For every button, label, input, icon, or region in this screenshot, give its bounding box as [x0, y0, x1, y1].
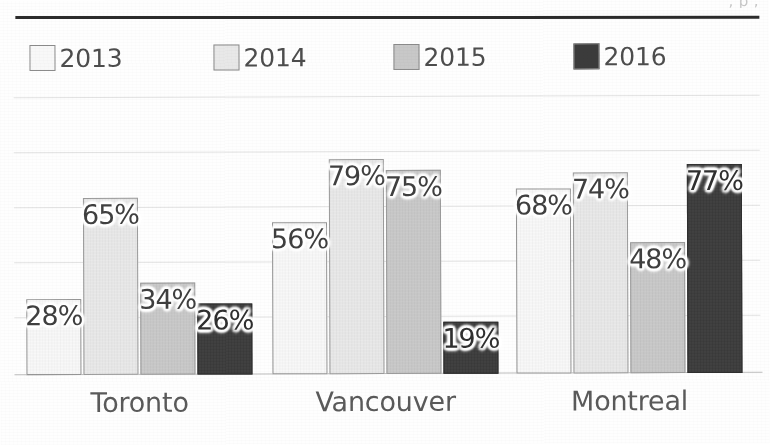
bar-slot: 65%	[83, 97, 139, 375]
legend-swatch-2016	[573, 43, 599, 69]
bar-value-label: 34%	[139, 286, 196, 313]
bar-value-label: 79%	[328, 162, 385, 189]
legend-swatch-2013	[29, 45, 55, 71]
category-axis: TorontoVancouverMontreal	[1, 385, 770, 427]
cropped-heading: , p ;	[429, 0, 759, 9]
category-label-montreal: Montreal	[571, 385, 688, 416]
bar-slot: 68%	[516, 95, 572, 373]
bar-slot: 75%	[386, 96, 442, 374]
legend-label-2016: 2016	[603, 44, 666, 69]
bar-group: 68%74%48%77%	[516, 95, 743, 374]
bar-value-label: 75%	[385, 173, 442, 200]
bar-value-label: 26%	[196, 306, 253, 333]
bar-value-label: 68%	[515, 191, 572, 218]
bar-slot: 79%	[329, 96, 385, 374]
bar-slot: 26%	[197, 96, 253, 374]
bar-group: 28%65%34%26%	[26, 96, 253, 375]
legend-item-2013[interactable]: 2013	[29, 45, 122, 71]
plot-area: 28%65%34%26%56%79%75%19%68%74%48%77%	[0, 95, 769, 375]
bar-slot: 56%	[272, 96, 328, 374]
legend-label-2013: 2013	[59, 45, 122, 70]
bar-slot: 74%	[573, 95, 629, 373]
category-label-toronto: Toronto	[90, 387, 188, 418]
bar-value-label: 48%	[629, 245, 686, 272]
legend-swatch-2014	[213, 44, 239, 70]
chart-legend: 2013 2014 2015 2016	[21, 43, 721, 83]
category-label-vancouver: Vancouver	[315, 386, 456, 417]
legend-label-2014: 2014	[243, 45, 306, 70]
bar-slot: 19%	[443, 96, 499, 374]
bar-value-label: 56%	[271, 225, 328, 252]
bar-value-label: 65%	[82, 201, 139, 228]
bar-vancouver-2014[interactable]	[329, 159, 385, 374]
bar-value-label: 74%	[572, 175, 629, 202]
bar-value-label: 77%	[686, 167, 743, 194]
bar-slot: 48%	[630, 95, 686, 373]
legend-item-2016[interactable]: 2016	[573, 43, 666, 69]
bar-value-label: 19%	[442, 325, 499, 352]
legend-label-2015: 2015	[423, 44, 486, 69]
top-rule-divider	[15, 16, 759, 19]
bar-slot: 77%	[687, 95, 743, 373]
legend-swatch-2015	[393, 44, 419, 70]
legend-item-2014[interactable]: 2014	[213, 44, 306, 70]
bar-slot: 28%	[26, 97, 82, 375]
legend-item-2015[interactable]: 2015	[393, 44, 486, 70]
bar-value-label: 28%	[25, 302, 82, 329]
bar-group: 56%79%75%19%	[272, 96, 499, 375]
bar-slot: 34%	[140, 97, 196, 375]
